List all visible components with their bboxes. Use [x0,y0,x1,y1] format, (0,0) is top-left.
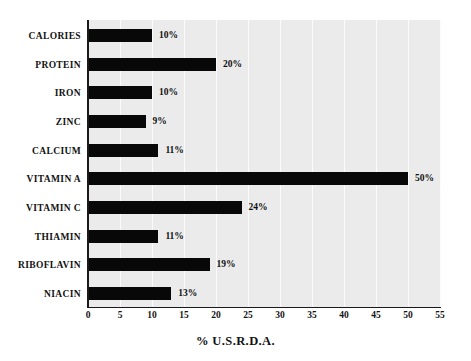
category-axis-labels: CALORIESPROTEINIRONZINCCALCIUMVITAMIN AV… [0,20,85,307]
x-axis-tick-labels: 0510152025303540455055 [88,310,440,326]
bar [88,29,152,42]
x-tick-label: 40 [339,310,349,320]
category-label: RIBOFLAVIN [0,260,81,270]
x-axis-title: % U.S.R.D.A. [0,334,471,349]
bar [88,258,210,271]
x-tick-label: 15 [179,310,189,320]
x-tick-label: 10 [147,310,157,320]
x-tick-label: 20 [211,310,221,320]
x-tick-label: 45 [371,310,381,320]
bar [88,201,242,214]
bar-value-label: 19% [217,258,236,271]
bar [88,115,146,128]
bar [88,58,216,71]
bar [88,86,152,99]
x-tick-label: 30 [275,310,285,320]
x-tick-label: 35 [307,310,317,320]
x-tick-label: 25 [243,310,253,320]
category-label: NIACIN [0,289,81,299]
x-tick-label: 0 [86,310,91,320]
category-label: VITAMIN A [0,174,81,184]
category-label: THIAMIN [0,232,81,242]
category-label: PROTEIN [0,60,81,70]
bar [88,287,171,300]
bar-value-label: 10% [159,86,178,99]
gridline-30 [280,20,281,307]
gridline-25 [248,20,249,307]
gridline-45 [376,20,377,307]
bar-value-label: 10% [159,29,178,42]
category-label: CALORIES [0,31,81,41]
gridline-55 [440,20,441,307]
gridline-50 [408,20,409,307]
bar [88,144,158,157]
x-tick-label: 5 [118,310,123,320]
bar-value-label: 11% [165,230,183,243]
x-tick-label: 55 [435,310,445,320]
category-label: VITAMIN C [0,203,81,213]
gridline-40 [344,20,345,307]
bar-value-label: 24% [249,201,268,214]
category-label: ZINC [0,117,81,127]
x-tick-label: 50 [403,310,413,320]
bar-value-label: 11% [165,144,183,157]
bar-chart: CALORIESPROTEINIRONZINCCALCIUMVITAMIN AV… [0,0,471,361]
bar [88,230,158,243]
y-axis-line [87,20,89,308]
gridline-35 [312,20,313,307]
plot-area: 10%20%10%9%11%50%24%11%19%13% [88,20,440,307]
category-label: IRON [0,88,81,98]
bar [88,172,408,185]
bar-value-label: 50% [415,172,434,185]
category-label: CALCIUM [0,146,81,156]
bar-value-label: 13% [178,287,197,300]
bar-value-label: 9% [153,115,167,128]
bar-value-label: 20% [223,58,242,71]
x-axis-line [87,307,441,309]
